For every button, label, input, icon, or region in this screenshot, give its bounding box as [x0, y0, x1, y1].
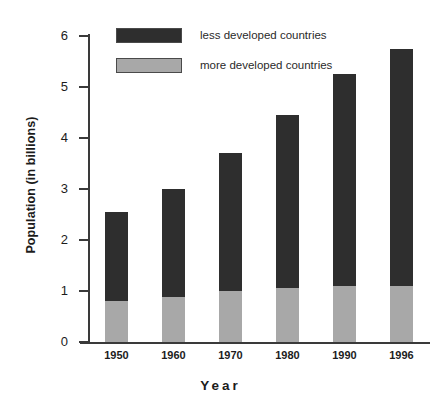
y-axis-tick-label-wrap: 2 — [44, 233, 68, 246]
bar-segment-less-developed[interactable] — [276, 115, 299, 288]
population-stacked-bar-chart: Population (in billions) 0123456 1950196… — [0, 0, 441, 412]
y-axis-tick-label-wrap: 6 — [44, 29, 68, 42]
x-axis-tick-label: 1960 — [146, 349, 202, 361]
y-axis-tick-label-wrap: 1 — [44, 284, 68, 297]
y-axis-tick-label-wrap: 5 — [44, 80, 68, 93]
bar-group[interactable] — [219, 153, 242, 342]
x-axis-tick-label: 1996 — [374, 349, 430, 361]
bar-segment-less-developed[interactable] — [219, 153, 242, 291]
bar-segment-more-developed[interactable] — [390, 286, 413, 342]
bar-segment-more-developed[interactable] — [105, 301, 128, 342]
bar-segment-less-developed[interactable] — [333, 74, 356, 286]
legend: less developed countries more developed … — [116, 27, 332, 87]
bar-group[interactable] — [162, 189, 185, 342]
y-axis-tick-label-wrap: 0 — [44, 335, 68, 348]
bar-segment-more-developed[interactable] — [333, 286, 356, 342]
legend-item-more-developed: more developed countries — [116, 57, 332, 73]
legend-swatch-less-developed — [116, 28, 182, 43]
y-axis-tick-label: 2 — [44, 233, 68, 246]
x-axis-tick-label: 1980 — [260, 349, 316, 361]
bar-group[interactable] — [276, 115, 299, 342]
y-axis-tick-label-wrap: 3 — [44, 182, 68, 195]
y-axis-tick-label: 5 — [44, 80, 68, 93]
x-axis-tick-label: 1970 — [203, 349, 259, 361]
bar-segment-more-developed[interactable] — [276, 288, 299, 342]
legend-swatch-more-developed — [116, 58, 182, 73]
legend-label-more-developed: more developed countries — [200, 59, 332, 71]
bar-group[interactable] — [390, 49, 413, 342]
bar-segment-less-developed[interactable] — [162, 189, 185, 297]
y-axis-tick-label: 6 — [44, 29, 68, 42]
y-axis-tick-label: 3 — [44, 182, 68, 195]
bar-segment-more-developed[interactable] — [162, 297, 185, 342]
bar-segment-less-developed[interactable] — [105, 212, 128, 301]
bar-segment-more-developed[interactable] — [219, 291, 242, 342]
y-axis-title: Population (in billions) — [24, 80, 38, 290]
x-axis-tick-label: 1950 — [89, 349, 145, 361]
x-axis-line — [80, 342, 430, 344]
bar-segment-less-developed[interactable] — [390, 49, 413, 286]
bar-group[interactable] — [333, 74, 356, 342]
y-axis-tick-label: 4 — [44, 131, 68, 144]
x-axis-tick-label: 1990 — [317, 349, 373, 361]
y-axis-tick-label: 1 — [44, 284, 68, 297]
legend-item-less-developed: less developed countries — [116, 27, 332, 43]
y-axis-tick-label: 0 — [44, 335, 68, 348]
y-axis-tick-label-wrap: 4 — [44, 131, 68, 144]
legend-label-less-developed: less developed countries — [200, 29, 327, 41]
bar-group[interactable] — [105, 212, 128, 342]
x-axis-title: Year — [0, 378, 441, 393]
